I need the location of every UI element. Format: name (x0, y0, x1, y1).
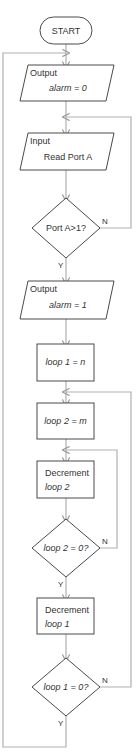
decision2-text: loop 2 = 0? (44, 543, 89, 553)
decision-port-a: Port A>1? N Y (32, 198, 108, 270)
input1-text: Read Port A (44, 152, 93, 162)
decision-loop2-zero: loop 2 = 0? N Y (32, 519, 108, 589)
output-alarm-0: Output alarm = 0 (20, 65, 114, 101)
start-label: START (52, 26, 81, 36)
flowchart: START Output alarm = 0 Input Read Port A… (0, 0, 140, 756)
process-loop1-n: loop 1 = n (37, 344, 94, 381)
decision3-yes: Y (58, 719, 64, 728)
decision1-yes: Y (58, 261, 64, 270)
process3-text: loop 2 (45, 482, 70, 492)
process2-text: loop 2 = m (44, 416, 87, 426)
output2-text: alarm = 1 (49, 300, 87, 310)
decision3-text: loop 1 = 0? (44, 682, 89, 692)
decision-loop1-zero: loop 1 = 0? N Y (32, 658, 108, 728)
process-decrement-loop1: Decrement loop 1 (37, 598, 94, 634)
decision3-no: N (102, 676, 108, 685)
decision1-no: N (102, 217, 108, 226)
process1-text: loop 1 = n (46, 357, 86, 367)
output2-title: Output (30, 284, 58, 294)
input1-title: Input (30, 136, 51, 146)
output1-title: Output (30, 68, 58, 78)
decision2-no: N (102, 537, 108, 546)
output1-text: alarm = 0 (49, 83, 87, 93)
output-alarm-1: Output alarm = 1 (20, 281, 114, 319)
decision2-yes: Y (58, 580, 64, 589)
start-terminal: START (40, 17, 92, 44)
process3-title: Decrement (45, 468, 90, 478)
decision1-text: Port A>1? (46, 223, 86, 233)
process4-title: Decrement (45, 605, 90, 615)
process-loop2-m: loop 2 = m (37, 403, 94, 439)
process4-text: loop 1 (45, 619, 70, 629)
process-decrement-loop2: Decrement loop 2 (37, 461, 94, 498)
input-read-port-a: Input Read Port A (20, 133, 114, 170)
